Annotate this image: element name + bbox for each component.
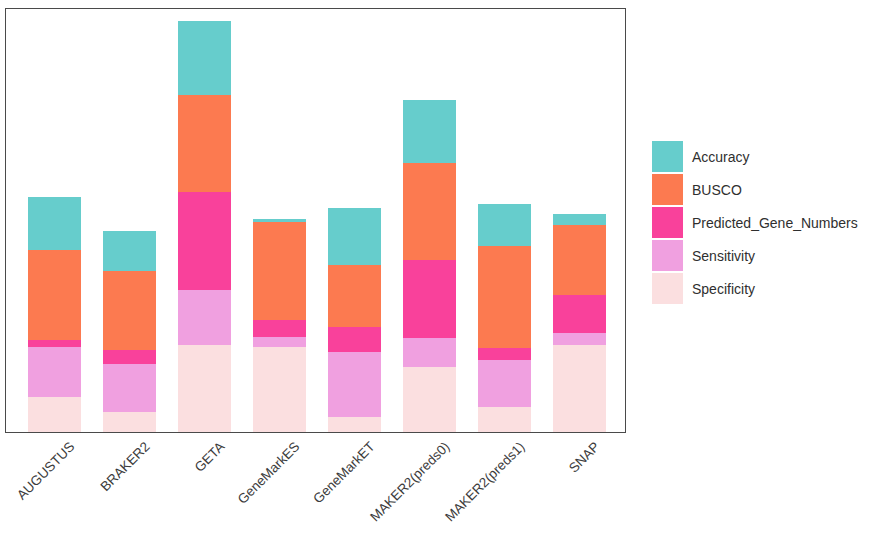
x-tick-label-maker2-preds0: MAKER2(preds0) xyxy=(441,439,442,440)
x-tick-label-genemarkes: GeneMarkES xyxy=(291,439,292,440)
bar-snap xyxy=(553,214,606,432)
legend-row-specificity: Specificity xyxy=(652,272,882,305)
bar-segment-sensitivity xyxy=(328,352,381,417)
legend-label-busco: BUSCO xyxy=(692,183,742,197)
plot-area xyxy=(6,9,625,432)
x-tick-label-text: GeneMarkES xyxy=(234,439,302,507)
bar-segment-sensitivity xyxy=(253,337,306,347)
legend-label-accuracy: Accuracy xyxy=(692,150,750,164)
bar-segment-specificity xyxy=(553,345,606,432)
bar-segment-busco xyxy=(553,225,606,295)
bar-segment-accuracy xyxy=(178,21,231,95)
bar-segment-accuracy xyxy=(103,231,156,270)
bar-segment-busco xyxy=(103,271,156,351)
plot-frame xyxy=(5,8,626,433)
x-tick-label-geta: GETA xyxy=(216,439,217,440)
bar-segment-predicted-gene-numbers xyxy=(478,348,531,360)
x-tick-label-text: MAKER2(preds1) xyxy=(442,439,527,524)
x-tick-label-text: BRAKER2 xyxy=(97,439,152,494)
bar-segment-accuracy xyxy=(328,208,381,266)
bar-segment-specificity xyxy=(403,367,456,432)
legend-swatch-predicted-gene-numbers xyxy=(652,207,683,238)
bar-segment-predicted-gene-numbers xyxy=(103,350,156,364)
x-tick-label-text: SNAP xyxy=(566,439,603,476)
bar-segment-busco xyxy=(28,250,81,340)
bar-augustus xyxy=(28,197,81,432)
legend-swatch-busco xyxy=(652,174,683,205)
x-tick-label-text: GeneMarkET xyxy=(310,439,377,506)
legend-row-busco: BUSCO xyxy=(652,173,882,206)
bar-segment-accuracy xyxy=(553,214,606,226)
bar-segment-predicted-gene-numbers xyxy=(178,192,231,290)
bar-segment-specificity xyxy=(478,407,531,432)
bar-genemarkes xyxy=(253,219,306,432)
bar-segment-sensitivity xyxy=(103,364,156,412)
x-tick-label-snap: SNAP xyxy=(591,439,592,440)
chart-legend: AccuracyBUSCOPredicted_Gene_NumbersSensi… xyxy=(652,140,882,305)
bar-segment-busco xyxy=(403,163,456,260)
x-tick-label-text: AUGUSTUS xyxy=(13,439,77,503)
bar-segment-specificity xyxy=(328,417,381,432)
legend-label-predicted-gene-numbers: Predicted_Gene_Numbers xyxy=(692,216,858,230)
bar-segment-accuracy xyxy=(403,100,456,164)
bar-segment-predicted-gene-numbers xyxy=(253,320,306,337)
bar-maker2-preds1 xyxy=(478,204,531,432)
x-tick-label-text: MAKER2(preds0) xyxy=(367,439,452,524)
bar-segment-predicted-gene-numbers xyxy=(328,327,381,352)
x-tick-label-text: GETA xyxy=(191,439,227,475)
bar-segment-accuracy xyxy=(478,204,531,246)
legend-row-predicted-gene-numbers: Predicted_Gene_Numbers xyxy=(652,206,882,239)
bar-geta xyxy=(178,21,231,432)
legend-swatch-accuracy xyxy=(652,141,683,172)
x-tick-label-maker2-preds1: MAKER2(preds1) xyxy=(516,439,517,440)
bar-segment-sensitivity xyxy=(553,333,606,346)
x-tick-label-genemarket: GeneMarkET xyxy=(366,439,367,440)
bar-segment-busco xyxy=(478,246,531,348)
x-tick-label-braker2: BRAKER2 xyxy=(141,439,142,440)
bar-segment-sensitivity xyxy=(403,338,456,368)
bar-maker2-preds0 xyxy=(403,100,456,432)
bar-segment-specificity xyxy=(178,345,231,432)
bar-braker2 xyxy=(103,231,156,432)
bar-segment-predicted-gene-numbers xyxy=(403,260,456,337)
legend-row-accuracy: Accuracy xyxy=(652,140,882,173)
bar-segment-accuracy xyxy=(28,197,81,250)
figure: AUGUSTUSBRAKER2GETAGeneMarkESGeneMarkETM… xyxy=(0,0,886,538)
bar-segment-busco xyxy=(328,265,381,327)
legend-label-specificity: Specificity xyxy=(692,282,755,296)
x-tick-label-augustus: AUGUSTUS xyxy=(66,439,67,440)
bar-segment-predicted-gene-numbers xyxy=(553,295,606,332)
legend-swatch-specificity xyxy=(652,273,683,304)
bar-segment-predicted-gene-numbers xyxy=(28,340,81,347)
bar-genemarket xyxy=(328,208,381,432)
bar-segment-specificity xyxy=(103,412,156,432)
bar-segment-specificity xyxy=(28,397,81,432)
bar-segment-sensitivity xyxy=(478,360,531,408)
bar-segment-sensitivity xyxy=(178,290,231,345)
bar-segment-sensitivity xyxy=(28,347,81,397)
legend-label-sensitivity: Sensitivity xyxy=(692,249,755,263)
bar-segment-busco xyxy=(253,222,306,320)
bar-segment-busco xyxy=(178,95,231,192)
bar-segment-specificity xyxy=(253,347,306,432)
legend-row-sensitivity: Sensitivity xyxy=(652,239,882,272)
legend-swatch-sensitivity xyxy=(652,240,683,271)
